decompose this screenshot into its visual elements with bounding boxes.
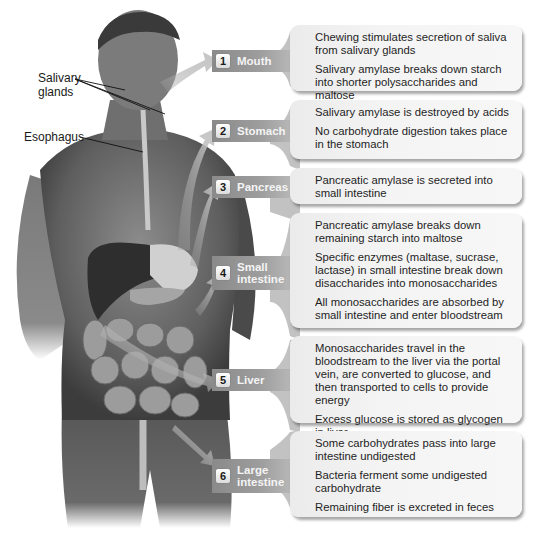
step-2-fact-1: Salivary amylase is destroyed by acids bbox=[315, 106, 512, 119]
step-3-tab: 3 Pancreas bbox=[212, 176, 292, 198]
step-4-label: Small intestine bbox=[237, 261, 284, 285]
step-6-tab: 6 Large intestine bbox=[212, 459, 292, 493]
step-5-label: Liver bbox=[237, 374, 265, 386]
step-3-box: Pancreatic amylase is secreted into smal… bbox=[290, 168, 522, 204]
step-1-fact-1: Chewing stimulates secretion of saliva f… bbox=[315, 31, 512, 57]
step-6-label-line2: intestine bbox=[237, 476, 284, 488]
step-2-tab: 2 Stomach bbox=[212, 120, 292, 142]
step-1-label: Mouth bbox=[237, 55, 271, 67]
step-2-box: Salivary amylase is destroyed by acids N… bbox=[290, 100, 522, 159]
step-1-box: Chewing stimulates secretion of saliva f… bbox=[290, 25, 522, 91]
step-4-label-line1: Small bbox=[237, 261, 268, 273]
step-2-number: 2 bbox=[216, 124, 230, 138]
step-4-box: Pancreatic amylase breaks down remaining… bbox=[290, 213, 522, 328]
step-4-number: 4 bbox=[216, 266, 230, 280]
step-5-fact-1: Monosaccharides travel in the bloodstrea… bbox=[315, 342, 512, 407]
step-4-label-line2: intestine bbox=[237, 273, 284, 285]
step-6-fact-2: Bacteria ferment some undigested carbohy… bbox=[315, 469, 512, 495]
esophagus-label: Esophagus bbox=[24, 130, 84, 144]
step-6-fact-3: Remaining fiber is excreted in feces bbox=[315, 501, 512, 514]
step-6-box: Some carbohydrates pass into large intes… bbox=[290, 431, 522, 517]
step-4-tab: 4 Small intestine bbox=[212, 256, 292, 290]
step-3-label: Pancreas bbox=[237, 181, 288, 193]
step-6-fact-1: Some carbohydrates pass into large intes… bbox=[315, 437, 512, 463]
step-6-label-line1: Large bbox=[237, 464, 268, 476]
step-6-number: 6 bbox=[216, 469, 230, 483]
step-1-tab: 1 Mouth bbox=[212, 50, 292, 72]
step-2-fact-2: No carbohydrate digestion takes place in… bbox=[315, 125, 512, 151]
step-3-fact-1: Pancreatic amylase is secreted into smal… bbox=[315, 174, 512, 200]
step-5-tab: 5 Liver bbox=[212, 369, 292, 391]
step-3-number: 3 bbox=[216, 180, 230, 194]
step-4-fact-1: Pancreatic amylase breaks down remaining… bbox=[315, 219, 512, 245]
step-1-number: 1 bbox=[216, 54, 230, 68]
salivary-glands-line2: glands bbox=[38, 85, 81, 99]
step-1-fact-2: Salivary amylase breaks down starch into… bbox=[315, 63, 512, 102]
step-4-fact-3: All monosaccharides are absorbed by smal… bbox=[315, 296, 512, 322]
step-6-label: Large intestine bbox=[237, 464, 284, 488]
salivary-glands-label: Salivary glands bbox=[38, 71, 81, 99]
step-4-fact-2: Specific enzymes (maltase, sucrase, lact… bbox=[315, 251, 512, 290]
step-5-box: Monosaccharides travel in the bloodstrea… bbox=[290, 336, 522, 423]
salivary-glands-line1: Salivary bbox=[38, 71, 81, 85]
step-2-label: Stomach bbox=[237, 125, 286, 137]
digestion-figure: Salivary glands Esophagus 1 Mouth Chewin… bbox=[0, 0, 547, 541]
step-5-number: 5 bbox=[216, 373, 230, 387]
